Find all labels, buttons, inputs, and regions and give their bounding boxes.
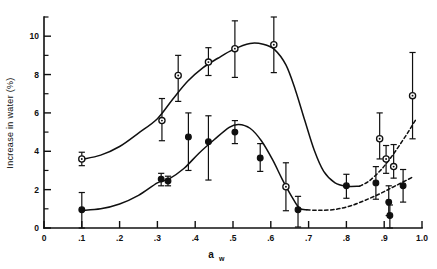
- x-tick-label: .2: [116, 233, 123, 243]
- y-axis-title: Increase in water (%): [5, 77, 15, 168]
- x-tick-label: .6: [267, 233, 274, 243]
- y-axis-tick-labels: 0246810: [30, 31, 40, 233]
- data-point: [159, 99, 165, 141]
- x-tick-label: .7: [305, 233, 312, 243]
- open-circle-center-dot: [207, 61, 209, 63]
- data-point: [383, 146, 389, 174]
- x-axis-title-subscript: w: [218, 255, 225, 262]
- filled-circle-marker: [206, 139, 212, 145]
- data-point: [377, 113, 383, 159]
- data-point: [205, 48, 211, 76]
- data-point: [79, 193, 85, 228]
- y-tick-label: 2: [34, 185, 39, 195]
- data-point: [205, 116, 211, 180]
- data-point: [343, 174, 349, 198]
- open-circle-center-dot: [273, 44, 275, 46]
- lower-series-fit-curve: [82, 124, 307, 210]
- filled-circle-marker: [295, 207, 301, 213]
- open-circle-center-dot: [285, 186, 287, 188]
- open-circle-center-dot: [161, 120, 163, 122]
- figure-container: 0246810 0.1.2.3.4.5.6.7.8.91.0 a w Incre…: [0, 0, 437, 269]
- open-circle-center-dot: [385, 158, 387, 160]
- x-tick-label: .1: [78, 233, 85, 243]
- filled-circle-marker: [373, 180, 379, 186]
- filled-circle-marker: [344, 183, 350, 189]
- data-point: [409, 52, 415, 138]
- open-circle-center-dot: [234, 48, 236, 50]
- filled-circle-marker: [158, 176, 164, 182]
- data-point: [400, 169, 406, 202]
- x-tick-label: 1.0: [416, 233, 428, 243]
- upper-series-fit-curve: [82, 43, 360, 186]
- y-tick-label: 10: [30, 31, 40, 41]
- series-open-circle: [79, 17, 416, 211]
- data-point: [271, 17, 277, 73]
- data-point: [158, 173, 164, 185]
- lower-series-extrapolation: [307, 177, 413, 210]
- open-circle-center-dot: [393, 166, 395, 168]
- filled-circle-marker: [386, 199, 392, 205]
- data-point: [391, 145, 397, 179]
- filled-circle-marker: [387, 213, 393, 219]
- x-tick-label: .5: [229, 233, 236, 243]
- y-tick-label: 4: [34, 146, 39, 156]
- x-tick-label: .8: [343, 233, 350, 243]
- data-point: [283, 163, 289, 211]
- fitted-curves: [82, 43, 417, 210]
- y-tick-label: 6: [34, 108, 39, 118]
- open-circle-center-dot: [177, 75, 179, 77]
- filled-circle-marker: [79, 207, 85, 213]
- x-axis-title: a: [208, 249, 214, 260]
- series-filled-circle: [79, 113, 407, 228]
- filled-circle-marker: [185, 134, 191, 140]
- y-axis-ticks: [44, 17, 51, 228]
- data-point: [232, 21, 238, 78]
- x-axis-tick-labels: 0.1.2.3.4.5.6.7.8.91.0: [42, 233, 429, 243]
- open-circle-center-dot: [379, 138, 381, 140]
- data-point: [387, 205, 393, 228]
- x-tick-label: .4: [192, 233, 199, 243]
- x-tick-label: .9: [381, 233, 388, 243]
- y-tick-label: 8: [34, 70, 39, 80]
- y-tick-label: 0: [34, 223, 39, 233]
- data-point: [79, 152, 85, 165]
- upper-series-extrapolation: [360, 119, 417, 187]
- x-tick-label: .3: [154, 233, 161, 243]
- filled-circle-marker: [232, 129, 238, 135]
- open-circle-center-dot: [412, 95, 414, 97]
- chart-plot: 0246810 0.1.2.3.4.5.6.7.8.91.0 a w Incre…: [0, 0, 437, 269]
- data-point: [295, 196, 301, 227]
- filled-circle-marker: [400, 183, 406, 189]
- x-tick-label: 0: [42, 233, 47, 243]
- x-axis-ticks: [44, 221, 422, 228]
- data-point: [257, 144, 263, 172]
- filled-circle-marker: [165, 178, 171, 184]
- open-circle-center-dot: [81, 158, 83, 160]
- filled-circle-marker: [257, 155, 263, 161]
